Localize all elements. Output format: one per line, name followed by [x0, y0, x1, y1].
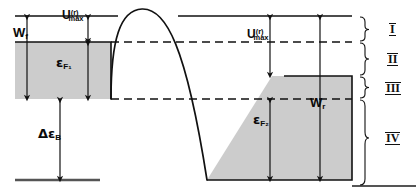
region-label-II: II: [387, 52, 398, 67]
brace-region-I: [360, 17, 369, 41]
label-work-function-forward: Wf: [13, 26, 28, 41]
band-diagram-svg: [0, 0, 416, 193]
region-label-IV: IV: [385, 131, 400, 146]
region-label-III: III: [385, 81, 401, 96]
region-label-I: I: [389, 22, 396, 37]
label-bias-energy: ΔεB: [38, 127, 61, 142]
right-electrode-fill: [207, 76, 352, 180]
label-fermi-energy-right: εF₂: [253, 113, 269, 128]
tunnel-barrier-curve: [111, 9, 207, 180]
brace-region-IV: [360, 100, 369, 185]
label-umax-right: U(r)max: [247, 28, 268, 42]
brace-region-III: [360, 77, 369, 98]
brace-region-II: [360, 43, 369, 75]
label-umax-left: U(r)max: [62, 9, 83, 23]
figure-canvas: Wf U(r)max εF₁ ΔεB U(r)max εF₂ Wr I II I…: [0, 0, 416, 193]
label-fermi-energy-left: εF₁: [56, 56, 72, 71]
label-work-function-reverse: Wr: [310, 96, 325, 111]
